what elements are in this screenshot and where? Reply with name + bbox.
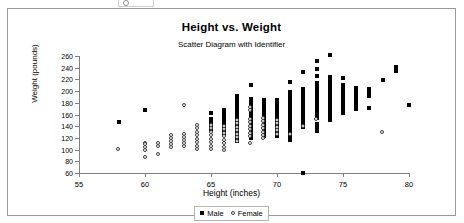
y-tick-label: 120 <box>45 135 73 142</box>
y-tick-label: 160 <box>45 112 73 119</box>
top-cut-strip <box>0 0 464 7</box>
chart-frame: Height vs. Weight Scatter Diagram with I… <box>7 8 456 216</box>
x-axis-label: Height (inches) <box>8 188 455 198</box>
x-axis-line <box>79 173 409 174</box>
y-tick <box>75 56 79 57</box>
data-point-male <box>367 106 371 110</box>
data-point-male <box>367 94 371 98</box>
data-point-female <box>314 117 318 121</box>
y-tick <box>75 126 79 127</box>
data-point-male <box>315 74 319 78</box>
data-point-male <box>315 59 319 63</box>
data-point-female <box>143 148 147 152</box>
y-tick <box>75 91 79 92</box>
y-tick-label: 80 <box>45 158 73 165</box>
data-point-female <box>288 132 292 136</box>
data-point-female <box>222 148 226 152</box>
data-point-female <box>380 130 384 134</box>
data-point-male <box>341 111 345 115</box>
data-point-female <box>182 144 186 148</box>
y-tick-label: 60 <box>45 170 73 177</box>
data-point-female <box>301 124 305 128</box>
data-point-female <box>248 141 252 145</box>
data-point-female <box>169 145 173 149</box>
data-point-male <box>341 76 345 80</box>
y-axis-label: Weight (pounds) <box>30 26 39 122</box>
x-tick <box>145 173 146 177</box>
data-point-male <box>394 69 398 73</box>
data-point-male <box>288 138 292 142</box>
y-tick <box>75 115 79 116</box>
legend-male-square-icon <box>200 211 204 215</box>
data-point-male <box>328 53 332 57</box>
chart-title: Height vs. Weight <box>8 21 455 33</box>
data-point-male <box>249 83 253 87</box>
x-tick <box>79 173 80 177</box>
data-point-male <box>354 107 358 111</box>
chart-subtitle: Scatter Diagram with Identifier <box>8 40 455 49</box>
legend-male-label: Male <box>207 209 223 218</box>
data-point-male <box>315 129 319 133</box>
y-axis-line <box>79 56 80 173</box>
data-point-female <box>143 155 147 159</box>
data-point-male <box>407 103 411 107</box>
data-point-male <box>288 80 292 84</box>
x-tick <box>409 173 410 177</box>
legend-box: MaleFemale <box>194 206 268 221</box>
data-point-female <box>235 139 239 143</box>
y-tick-label: 140 <box>45 123 73 130</box>
data-point-female <box>261 136 265 140</box>
y-tick-label: 100 <box>45 147 73 154</box>
data-point-female <box>182 103 186 107</box>
x-tick <box>277 173 278 177</box>
y-tick <box>75 79 79 80</box>
data-point-male <box>143 108 147 112</box>
legend-female-label: Female <box>238 209 263 218</box>
data-point-male <box>301 171 305 175</box>
y-tick-label: 260 <box>45 53 73 60</box>
data-point-female <box>195 147 199 151</box>
scatter-chart: Height vs. Weight Scatter Diagram with I… <box>8 9 455 215</box>
data-point-male <box>301 70 305 74</box>
data-point-female <box>116 147 120 151</box>
y-tick <box>75 138 79 139</box>
data-point-male <box>117 120 121 124</box>
chart-legend: MaleFemale <box>8 201 455 221</box>
data-point-female <box>209 147 213 151</box>
data-point-female <box>275 132 279 136</box>
y-tick <box>75 161 79 162</box>
y-tick-label: 240 <box>45 65 73 72</box>
y-tick <box>75 150 79 151</box>
y-tick-label: 220 <box>45 76 73 83</box>
y-tick <box>75 68 79 69</box>
y-tick-label: 180 <box>45 100 73 107</box>
x-tick <box>343 173 344 177</box>
partial-legend-circle-icon <box>123 0 129 6</box>
legend-female-circle-icon <box>231 211 235 215</box>
data-point-male <box>315 67 319 71</box>
data-point-male <box>381 78 385 82</box>
y-tick <box>75 103 79 104</box>
data-point-male <box>209 111 213 115</box>
data-point-female <box>156 144 160 148</box>
data-point-male <box>328 118 332 122</box>
x-tick <box>211 173 212 177</box>
data-point-female <box>156 152 160 156</box>
y-tick-label: 200 <box>45 88 73 95</box>
plot-area: 6080100120140160180200220240260 55606570… <box>79 56 409 173</box>
